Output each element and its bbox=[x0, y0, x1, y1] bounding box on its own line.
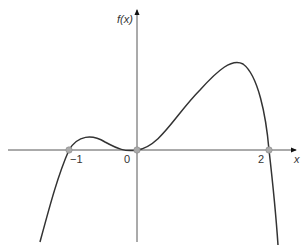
tick-label-2: 2 bbox=[258, 153, 264, 165]
x-axis-label: x bbox=[294, 153, 300, 165]
root-point-0 bbox=[134, 147, 140, 153]
function-graph bbox=[0, 0, 308, 251]
tick-label-0: 0 bbox=[124, 153, 130, 165]
y-axis-label: f(x) bbox=[117, 13, 133, 25]
tick-label-neg1: −1 bbox=[70, 153, 83, 165]
root-point-2 bbox=[266, 147, 272, 153]
